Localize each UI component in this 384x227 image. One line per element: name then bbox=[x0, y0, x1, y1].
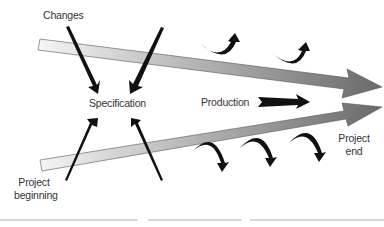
project-beginning-label: Project beginning bbox=[14, 176, 54, 202]
project-end-line2: end bbox=[334, 145, 374, 158]
lower-band-arrow bbox=[40, 103, 382, 171]
curved-up-arrow-2 bbox=[272, 42, 310, 64]
project-beginning-line1: Project bbox=[14, 176, 54, 189]
project-beginning-line2: beginning bbox=[14, 189, 54, 202]
upper-band-arrow bbox=[38, 39, 382, 98]
curved-up-arrow-1 bbox=[201, 33, 240, 55]
curved-down-arrow-3 bbox=[289, 133, 326, 162]
specification-label: Specification bbox=[89, 97, 146, 110]
curved-down-arrow-2 bbox=[240, 138, 277, 167]
production-label: Production bbox=[201, 96, 249, 109]
production-arrow bbox=[258, 94, 310, 109]
bottom-rule bbox=[0, 219, 384, 221]
diagram-canvas: Changes Specification Production Project… bbox=[0, 0, 384, 227]
changes-label: Changes bbox=[43, 9, 84, 22]
beginning-arrow-left bbox=[65, 118, 98, 181]
project-end-line1: Project bbox=[334, 132, 374, 145]
change-arrow-left bbox=[66, 26, 100, 94]
project-end-label: Project end bbox=[334, 132, 374, 158]
curved-down-arrow-1 bbox=[193, 142, 229, 172]
